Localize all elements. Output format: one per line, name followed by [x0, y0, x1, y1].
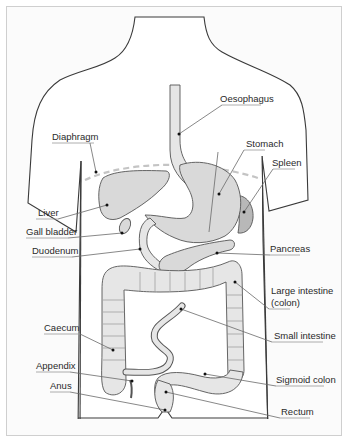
- label-colon: (colon): [271, 297, 300, 308]
- label-diaphragm: Diaphragm: [52, 131, 99, 142]
- label-caecum: Caecum: [44, 322, 79, 333]
- label-oesophagus: Oesophagus: [220, 93, 274, 104]
- digestive-system-diagram: Diaphragm Liver Gall bladder Duodenum Ca…: [0, 0, 349, 443]
- label-sigmoid-colon: Sigmoid colon: [276, 374, 336, 385]
- label-rectum: Rectum: [281, 406, 314, 417]
- label-pancreas: Pancreas: [270, 243, 310, 254]
- label-appendix: Appendix: [36, 360, 76, 371]
- label-duodenum: Duodenum: [32, 245, 79, 256]
- label-spleen: Spleen: [272, 157, 302, 168]
- label-liver: Liver: [38, 207, 59, 218]
- label-small-intestine: Small intestine: [274, 330, 336, 341]
- label-stomach: Stomach: [246, 138, 284, 149]
- label-anus: Anus: [50, 380, 72, 391]
- label-large-intestine: Large intestine: [271, 285, 333, 296]
- label-gall-bladder: Gall bladder: [26, 226, 77, 237]
